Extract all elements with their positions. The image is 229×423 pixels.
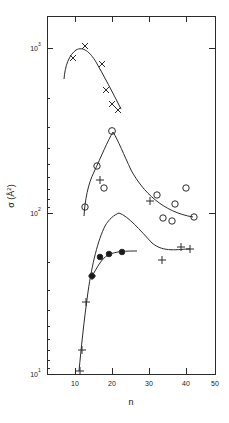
marker-circle: [183, 185, 189, 191]
marker-circle: [172, 201, 178, 207]
x-tick-label: 30: [145, 380, 153, 387]
y-axis-tick-labels: 10 3 10 2 10 1: [30, 41, 41, 378]
marker-x: [115, 107, 121, 113]
x-tick-label: 10: [71, 380, 79, 387]
scatter-plot: 10 20 30 40 50: [0, 0, 229, 423]
y-tick-exponent-1000: 3: [38, 41, 41, 47]
x-tick-label: 50: [211, 380, 219, 387]
cross-markers: [70, 43, 121, 113]
marker-circle: [169, 218, 175, 224]
y-axis-title: σ (Å2): [6, 184, 16, 207]
marker-x: [103, 87, 109, 93]
x-axis-title-text: n: [128, 397, 133, 407]
marker-plus: [96, 176, 104, 184]
open-circle-fit-curve: [84, 132, 193, 217]
y-tick-exponent-100: 2: [38, 206, 41, 212]
marker-filled-circle: [106, 251, 112, 257]
marker-circle: [154, 192, 160, 198]
marker-x: [99, 61, 105, 67]
x-tick-label: 40: [182, 380, 190, 387]
y-axis-ticks: [47, 48, 215, 374]
y-axis-title-base: σ (Å: [6, 191, 16, 208]
marker-x: [70, 55, 76, 61]
marker-plus: [82, 298, 90, 306]
y-axis-title-tail: ): [6, 184, 16, 187]
open-circle-markers: [82, 128, 197, 225]
plot-frame: [47, 16, 215, 374]
marker-circle: [160, 215, 166, 221]
marker-x: [109, 101, 115, 107]
marker-plus: [78, 346, 86, 354]
marker-filled-circle: [97, 254, 103, 260]
plus-fit-curve: [79, 213, 190, 371]
x-tick-label: 20: [108, 380, 116, 387]
x-axis-tick-labels: 10 20 30 40 50: [71, 380, 219, 387]
y-tick-label-1000: 10: [30, 45, 38, 52]
marker-filled-circle: [89, 273, 95, 279]
marker-plus: [158, 256, 166, 264]
filled-circle-markers: [89, 249, 125, 279]
marker-filled-circle: [119, 249, 125, 255]
x-axis-ticks: [75, 16, 215, 374]
y-tick-label-100: 10: [30, 210, 38, 217]
marker-plus: [186, 245, 194, 253]
y-tick-label-10: 10: [30, 371, 38, 378]
marker-x: [82, 43, 88, 49]
figure-container: 10 20 30 40 50: [0, 0, 229, 423]
y-tick-exponent-10: 1: [38, 367, 41, 373]
x-axis-title: n: [128, 397, 133, 407]
svg-text:σ (Å2): σ (Å2): [6, 184, 16, 207]
marker-circle: [101, 185, 107, 191]
